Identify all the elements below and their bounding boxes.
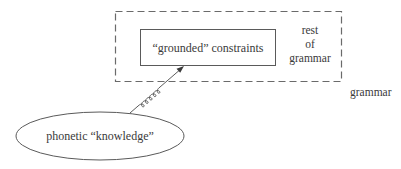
diagram-canvas: “grounded” constraints rest of grammar g…: [0, 0, 401, 169]
grammar-label: grammar: [350, 86, 392, 99]
grounded-constraints-label: “grounded” constraints: [153, 41, 264, 55]
phonetic-knowledge-label: phonetic “knowledge”: [46, 129, 154, 143]
rest-of-grammar-label-line-1: rest: [302, 24, 319, 36]
rest-of-grammar-label-line-3: grammar: [289, 52, 331, 65]
coiled-arrow-connector: [130, 66, 184, 113]
rest-of-grammar-label-line-2: of: [305, 38, 315, 50]
coil-line: [130, 69, 180, 113]
